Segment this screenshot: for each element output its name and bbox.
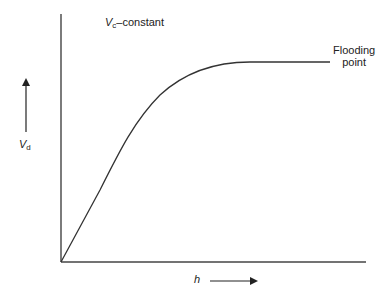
flooding-line1: Flooding [333, 44, 375, 56]
vc-constant-annotation: Vc–constant [105, 16, 164, 31]
flooding-point-annotation: Flooding point [333, 44, 375, 68]
x-axis-label: h [194, 273, 200, 285]
vc-text: –constant [116, 16, 164, 28]
vd-sub: d [26, 143, 30, 152]
flooding-line2: point [333, 56, 375, 68]
y-axis-label: Vd [19, 138, 31, 153]
vd-curve [61, 62, 330, 262]
